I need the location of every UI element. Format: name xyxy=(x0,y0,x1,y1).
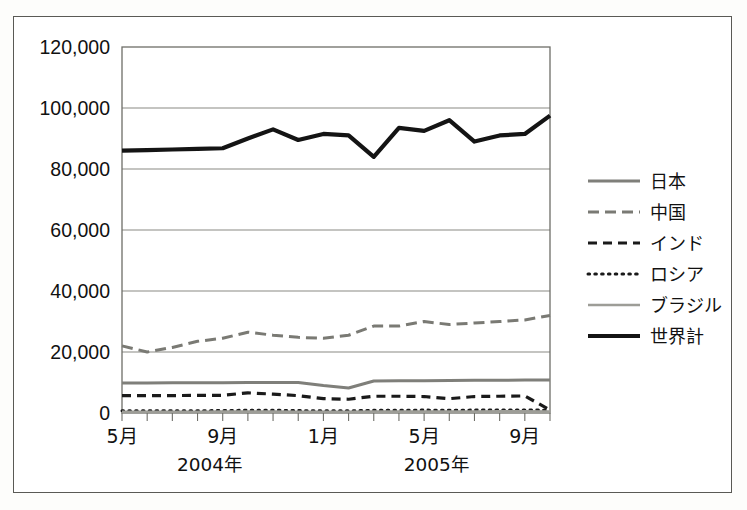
x-year-label: 2004年 xyxy=(177,454,243,475)
legend-label-5: 世界計 xyxy=(650,326,704,347)
y-tick-label: 0 xyxy=(99,402,110,424)
chart-figure: 020,00040,00060,00080,000100,000120,000 … xyxy=(0,0,747,510)
y-tick-label: 120,000 xyxy=(40,36,111,58)
series-line-1 xyxy=(122,315,550,352)
y-tick-label: 80,000 xyxy=(50,158,110,180)
y-tick-label: 60,000 xyxy=(50,219,110,241)
series-line-2 xyxy=(122,393,550,410)
legend-label-1: 中国 xyxy=(650,202,686,223)
series-line-5 xyxy=(122,116,550,157)
y-tick-label: 20,000 xyxy=(50,341,110,363)
series-line-0 xyxy=(122,380,550,388)
x-tick-label: 1月 xyxy=(308,425,339,447)
x-year-label: 2005年 xyxy=(404,454,470,475)
x-tick-label: 5月 xyxy=(106,425,137,447)
x-axis-tick-labels: 5月9月1月5月9月 xyxy=(106,425,540,447)
line-chart: 020,00040,00060,00080,000100,000120,000 … xyxy=(0,0,747,510)
legend-label-0: 日本 xyxy=(650,171,686,192)
gridlines-group xyxy=(122,108,550,352)
legend-label-3: ロシア xyxy=(650,264,704,285)
y-tick-label: 40,000 xyxy=(50,280,110,302)
x-tick-label: 5月 xyxy=(409,425,440,447)
x-tick-label: 9月 xyxy=(207,425,238,447)
x-axis-ticks xyxy=(122,413,550,421)
x-axis-year-labels: 2004年2005年 xyxy=(177,454,470,475)
x-tick-label: 9月 xyxy=(509,425,540,447)
y-tick-label: 100,000 xyxy=(40,97,111,119)
data-series-group xyxy=(122,116,550,412)
chart-legend: 日本中国インドロシアブラジル世界計 xyxy=(588,171,722,347)
legend-label-4: ブラジル xyxy=(650,295,722,316)
y-axis-tick-labels: 020,00040,00060,00080,000100,000120,000 xyxy=(40,36,111,424)
legend-label-2: インド xyxy=(650,233,704,254)
